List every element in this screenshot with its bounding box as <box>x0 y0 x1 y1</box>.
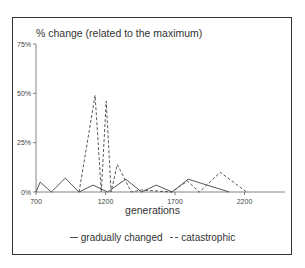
series-lines <box>36 95 247 192</box>
y-tick-label: 50% <box>17 90 31 97</box>
axes: 0%25%50%75%700120017002200 <box>17 41 285 206</box>
series-catastrophic <box>79 95 247 192</box>
legend-dashed-swatch-icon <box>170 237 178 238</box>
y-tick-label: 0% <box>21 189 31 196</box>
legend-item-catastrophic: catastrophic <box>181 232 235 243</box>
legend: gradually changed catastrophic <box>0 231 305 243</box>
plot-area: 0%25%50%75%700120017002200 <box>0 0 305 268</box>
x-axis-label: generations <box>0 204 305 216</box>
y-tick-label: 25% <box>17 139 31 146</box>
legend-item-gradually-changed: gradually changed <box>81 232 163 243</box>
series-gradually-changed <box>36 178 229 192</box>
legend-solid-swatch-icon <box>70 237 78 238</box>
y-tick-label: 75% <box>17 41 31 48</box>
